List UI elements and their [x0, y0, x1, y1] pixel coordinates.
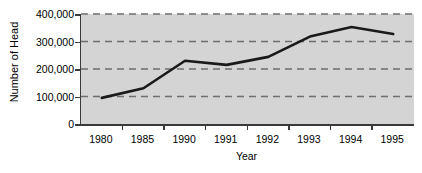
y-axis-tick-mark [75, 124, 80, 126]
x-axis-tick-mark [288, 124, 290, 130]
y-axis-tick-label: 400,000 [20, 9, 74, 19]
x-axis-tick-label: 1992 [244, 133, 290, 145]
x-axis-tick-mark [371, 124, 373, 130]
y-axis-tick-mark [75, 14, 80, 16]
x-axis-tick-label: 1995 [369, 133, 415, 145]
x-axis-tick-label: 1980 [78, 133, 124, 145]
gridlines [81, 14, 414, 97]
y-axis-tick-label: 0 [20, 119, 74, 129]
data-line-series [102, 27, 393, 98]
y-axis-tick-label: 200,000 [20, 64, 74, 74]
y-axis-tick-label: 300,000 [20, 37, 74, 47]
x-axis-tick-mark [122, 124, 124, 130]
plot-area [80, 14, 414, 124]
y-axis-tick-mark [75, 42, 80, 44]
y-axis-tick-labels: 0100,000200,000300,000400,000 [18, 0, 74, 173]
x-axis-tick-mark [205, 124, 207, 130]
x-axis-tick-mark [247, 124, 249, 130]
series-line-number-of-head [102, 27, 393, 98]
x-axis-tick-label: 1993 [286, 133, 332, 145]
x-axis-tick-label: 1991 [203, 133, 249, 145]
x-axis-tick-mark [163, 124, 165, 130]
x-axis-tick-label: 1990 [161, 133, 207, 145]
chart-canvas [81, 14, 414, 124]
y-axis-tick-mark [75, 97, 80, 99]
x-axis-tick-mark [330, 124, 332, 130]
x-axis-title: Year [80, 150, 413, 162]
x-axis-tick-label: 1994 [328, 133, 374, 145]
chart-figure: Number of Head 0100,000200,000300,000400… [0, 0, 422, 173]
x-axis-tick-label: 1985 [119, 133, 165, 145]
y-axis-tick-mark [75, 69, 80, 71]
y-axis-tick-label: 100,000 [20, 92, 74, 102]
